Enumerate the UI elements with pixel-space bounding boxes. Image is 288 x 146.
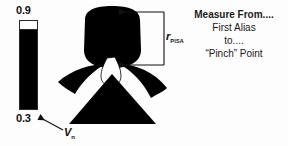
- caption-title: Measure From....: [182, 8, 286, 21]
- velocity-color-scale: 0.9 0.3: [14, 4, 48, 128]
- velocity-subscript: n: [71, 134, 75, 140]
- color-scale-bar: [19, 20, 38, 110]
- scale-max-label: 0.9: [16, 4, 31, 16]
- caption-line-1: First Alias: [182, 21, 286, 34]
- caption-block: Measure From.... First Alias to.... “Pin…: [182, 8, 286, 60]
- pisa-measurement-figure: 0.9 0.3 Vn: [0, 0, 288, 146]
- caption-line-2: to....: [182, 34, 286, 47]
- color-scale-aliasing-segment: [20, 21, 37, 30]
- scale-min-label: 0.3: [16, 112, 31, 124]
- left-leaflet-shape: [58, 64, 105, 94]
- caption-line-3: “Pinch” Point: [182, 47, 286, 60]
